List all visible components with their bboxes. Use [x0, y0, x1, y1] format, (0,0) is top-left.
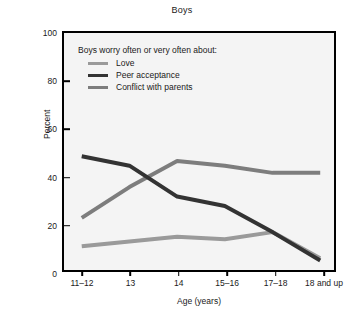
legend-label-conflict-with-parents: Conflict with parents	[116, 82, 193, 92]
legend-label-peer-acceptance: Peer acceptance	[116, 70, 180, 80]
chart-title: Boys	[0, 5, 364, 15]
y-tick-label: 80	[48, 76, 57, 86]
y-tick-mark	[64, 225, 70, 227]
x-tick-mark	[226, 270, 228, 276]
y-tick-label: 20	[48, 221, 57, 231]
series-line-love	[82, 232, 320, 258]
y-tick-label: 40	[48, 173, 57, 183]
x-tick-mark	[178, 270, 180, 276]
x-tick-label: 14	[174, 278, 183, 288]
x-tick-label: 13	[126, 278, 135, 288]
x-tick-mark	[323, 270, 325, 276]
x-tick-mark	[81, 270, 83, 276]
legend-item-love: Love	[78, 58, 217, 68]
legend-title: Boys worry often or very often about:	[78, 45, 217, 55]
x-tick-label: 18 and up	[305, 278, 343, 288]
legend-item-peer-acceptance: Peer acceptance	[78, 70, 217, 80]
y-tick-label: 0	[52, 269, 57, 279]
chart-figure: Boys Boys worry often or very often abou…	[0, 0, 364, 320]
series-lines	[82, 156, 320, 260]
x-tick-label: 11–12	[70, 278, 93, 288]
y-tick-mark	[64, 177, 70, 179]
x-tick-mark	[275, 270, 277, 276]
y-tick-label: 100	[43, 28, 57, 38]
y-tick-mark	[64, 80, 70, 82]
y-tick-label: 60	[48, 124, 57, 134]
chart-legend: Boys worry often or very often about: Lo…	[78, 45, 217, 92]
x-axis-label: Age (years)	[62, 296, 336, 306]
y-tick-mark	[64, 129, 70, 131]
series-line-conflict-with-parents	[82, 161, 320, 218]
legend-swatch-peer-acceptance	[88, 74, 108, 77]
legend-label-love: Love	[116, 58, 134, 68]
x-tick-label: 17–18	[264, 278, 288, 288]
x-tick-mark	[130, 270, 132, 276]
x-tick-label: 15–16	[215, 278, 239, 288]
plot-area: Boys worry often or very often about: Lo…	[62, 31, 336, 272]
legend-item-conflict-with-parents: Conflict with parents	[78, 82, 217, 92]
legend-swatch-love	[88, 62, 108, 65]
legend-swatch-conflict-with-parents	[88, 86, 108, 89]
